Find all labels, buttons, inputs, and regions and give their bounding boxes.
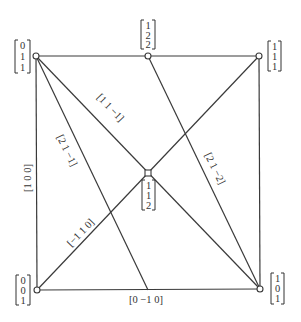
svg-text:1: 1	[20, 62, 25, 73]
vertex-top-left	[33, 53, 39, 59]
svg-text:1: 1	[272, 61, 277, 72]
vector-bottom-right: 1 0 1	[271, 273, 284, 304]
label-diagonal-1-1-m1: [1 1 −1]	[95, 92, 126, 124]
vector-top-right: 1 1 1	[268, 41, 281, 72]
vector-center: 1 1 2	[142, 180, 155, 211]
edge-bottom	[37, 289, 260, 290]
svg-text:1: 1	[20, 51, 25, 62]
vertex-center	[145, 170, 151, 176]
line-tl-to-bottom	[36, 56, 148, 290]
svg-text:1: 1	[20, 295, 25, 306]
vector-top-left: 0 1 1	[15, 40, 30, 73]
svg-text:2: 2	[146, 200, 151, 211]
svg-text:1: 1	[275, 293, 280, 304]
label-left-edge: [1 0 0]	[22, 164, 33, 192]
vertex-bottom-left	[34, 287, 40, 293]
vector-bottom-left: 0 0 1	[16, 275, 30, 306]
vector-top-middle: 1 2 2	[141, 20, 155, 50]
vertex-top-middle	[145, 53, 151, 59]
vertex-top-right	[256, 53, 262, 59]
svg-text:0: 0	[20, 40, 25, 51]
diagram-canvas: [1 0 0] [0 −1 0] [1 1 −1] [2 1 −1] [2 1 …	[0, 0, 301, 322]
edge-left	[36, 56, 37, 290]
vertex-bottom-right	[257, 286, 263, 292]
svg-text:2: 2	[145, 39, 150, 50]
line-tm-to-br	[148, 56, 260, 289]
label-line-2-1-m2: [2 1 −2]	[203, 151, 228, 186]
label-bottom-edge: [0 −1 0]	[129, 294, 163, 305]
edge-right	[259, 56, 260, 289]
